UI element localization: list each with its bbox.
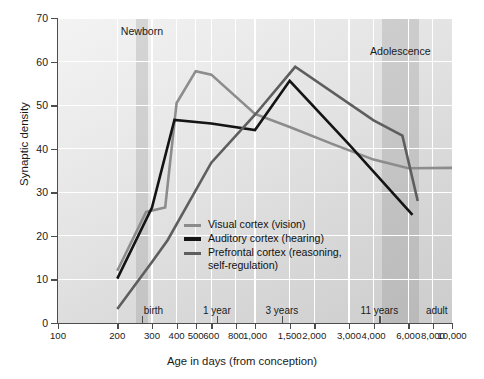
series-lines xyxy=(58,18,452,323)
y-axis-title: Synaptic density xyxy=(18,64,30,224)
y-tick-label: 20 xyxy=(18,231,48,241)
x-tick xyxy=(196,324,197,329)
x-tick-label: 10,000 xyxy=(430,331,474,341)
y-tick xyxy=(51,62,57,63)
x-tick xyxy=(152,324,153,329)
x-tick xyxy=(236,324,237,329)
x-tick xyxy=(452,324,453,329)
era-marker-tick xyxy=(282,316,283,323)
x-tick xyxy=(58,324,59,329)
legend-item-2: Prefrontal cortex (reasoning, self-regul… xyxy=(184,246,342,270)
x-tick xyxy=(408,324,409,329)
era-marker-tick xyxy=(217,316,218,323)
legend-swatch-icon xyxy=(184,237,201,241)
y-tick-label: 70 xyxy=(18,13,48,23)
era-label-newborn: Newborn xyxy=(121,25,163,37)
era-bottom-label: 11 years xyxy=(361,305,399,316)
x-axis-title: Age in days (from conception) xyxy=(0,355,484,367)
legend-label: Visual cortex (vision) xyxy=(208,218,306,230)
era-bottom-label: birth xyxy=(144,305,163,316)
legend-label: Auditory cortex (hearing) xyxy=(208,232,324,244)
era-bottom-label: adult xyxy=(426,305,448,316)
era-marker-tick xyxy=(379,316,380,323)
legend-swatch-icon xyxy=(184,252,201,255)
y-tick xyxy=(51,192,57,193)
y-tick xyxy=(51,105,57,106)
legend-label: Prefrontal cortex (reasoning, self-regul… xyxy=(208,246,342,270)
x-tick xyxy=(433,324,434,329)
y-tick xyxy=(51,236,57,237)
y-axis-line xyxy=(57,18,58,324)
legend-swatch-icon xyxy=(184,224,201,227)
y-tick xyxy=(51,18,57,19)
x-tick xyxy=(349,324,350,329)
legend-item-1: Auditory cortex (hearing) xyxy=(184,232,342,244)
y-tick-label: 10 xyxy=(18,274,48,284)
x-tick xyxy=(255,324,256,329)
y-tick-label: 0 xyxy=(18,318,48,328)
y-tick xyxy=(51,279,57,280)
x-tick-label: 100 xyxy=(36,331,80,341)
y-tick xyxy=(51,323,57,324)
era-bottom-label: 3 years xyxy=(266,305,299,316)
legend-item-0: Visual cortex (vision) xyxy=(184,218,342,230)
synaptic-density-chart: 010203040506070 1002003004005006008001,0… xyxy=(0,0,484,379)
y-tick xyxy=(51,149,57,150)
x-tick xyxy=(211,324,212,329)
era-label-adolescence: Adolescence xyxy=(370,45,431,57)
era-bottom-label: 1 year xyxy=(203,305,231,316)
x-tick xyxy=(314,324,315,329)
plot-area xyxy=(58,18,452,323)
x-tick xyxy=(177,324,178,329)
x-tick xyxy=(290,324,291,329)
era-marker-tick xyxy=(142,316,143,323)
x-tick xyxy=(374,324,375,329)
chart-legend: Visual cortex (vision)Auditory cortex (h… xyxy=(184,218,342,273)
x-tick xyxy=(117,324,118,329)
